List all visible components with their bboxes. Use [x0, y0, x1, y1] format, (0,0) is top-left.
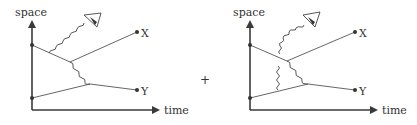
- end-dot-x: [135, 30, 139, 34]
- start-dot-top: [30, 43, 34, 47]
- observer-eye-icon: [84, 13, 101, 27]
- end-dot-y: [353, 88, 357, 92]
- time-axis-label: time: [382, 104, 407, 117]
- emitted-photon: [279, 25, 305, 54]
- label-y: Y: [140, 85, 149, 98]
- plus-operator: +: [200, 73, 210, 87]
- particle-worldline-x: [32, 32, 137, 62]
- feynman-diagram-canvas: space time X Y + space time: [0, 0, 417, 125]
- observer-eye-icon: [303, 12, 320, 27]
- end-dot-y: [135, 88, 139, 92]
- label-y: Y: [358, 85, 367, 98]
- particle-worldline-y: [250, 84, 355, 98]
- label-x: X: [141, 27, 149, 40]
- particle-worldline-x: [250, 32, 355, 61]
- space-axis-label: space: [15, 6, 47, 19]
- left-diagram: space time X Y: [15, 6, 189, 117]
- start-dot-bottom: [30, 96, 34, 100]
- start-dot-top: [248, 43, 252, 47]
- time-axis-label: time: [164, 104, 189, 117]
- space-axis-label: space: [233, 6, 265, 19]
- particle-worldline-y: [32, 84, 137, 98]
- right-diagram: space time X Y: [233, 6, 407, 117]
- end-dot-x: [353, 30, 357, 34]
- label-x: X: [359, 27, 367, 40]
- start-dot-bottom: [248, 96, 252, 100]
- exchange-photon: [70, 62, 90, 84]
- internal-photon: [277, 66, 280, 90]
- emitted-photon: [49, 23, 84, 53]
- exchange-photon: [287, 61, 308, 84]
